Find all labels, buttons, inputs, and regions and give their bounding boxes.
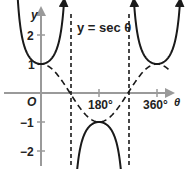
tick-label-y2: 2 [27,29,34,43]
secant-branch-middle [76,122,122,169]
tick-label-ym1: −1 [20,116,34,130]
tick-label-360: 360° [143,98,168,112]
chart-title: y = sec θ [77,20,131,35]
x-axis-label: θ [174,96,180,108]
secant-graph: y 2 1 O −1 −2 180° 360° θ y = sec θ [0,0,196,169]
secant-branch-right [134,0,180,64]
tick-label-180: 180° [88,98,113,112]
y-axis-label: y [30,8,39,22]
origin-label: O [27,95,37,109]
tick-label-ym2: −2 [20,145,34,159]
tick-label-y1: 1 [28,58,35,72]
